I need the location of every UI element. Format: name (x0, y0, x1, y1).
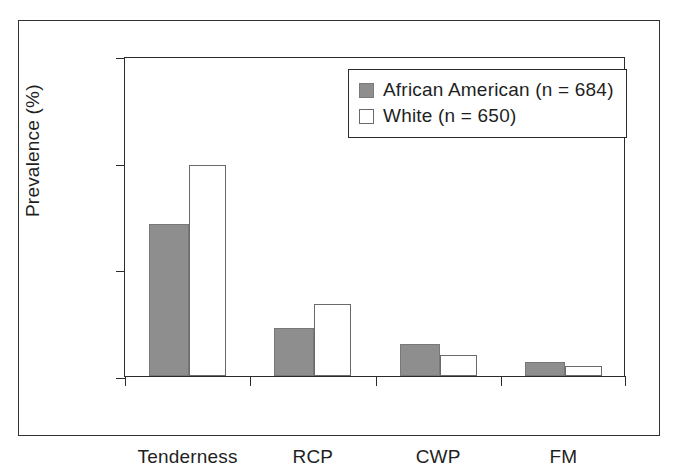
bar-fm-white (565, 366, 602, 376)
bar-cwp-white (440, 355, 477, 376)
legend-label-white: White (n = 650) (383, 105, 516, 127)
legend-swatch-filled-icon (359, 83, 374, 98)
y-tick-mark-40 (116, 165, 125, 166)
bar-cwp-african-american (400, 344, 440, 376)
legend-swatch-hollow-icon (359, 109, 374, 124)
y-tick-mark-20 (116, 271, 125, 272)
x-tick-mark-3 (501, 376, 502, 386)
x-tick-mark-4 (625, 376, 626, 386)
x-tick-label-rcp: RCP (293, 446, 334, 467)
x-tick-mark-0 (125, 376, 126, 386)
y-tick-mark-60 (116, 58, 125, 59)
x-tick-label-cwp: CWP (416, 446, 461, 467)
bar-rcp-white (314, 304, 351, 376)
legend-item-white: White (n = 650) (359, 103, 614, 129)
legend-label-african-american: African American (n = 684) (383, 79, 614, 101)
y-axis-title: Prevalence (%) (22, 84, 44, 217)
bar-fm-african-american (525, 362, 565, 376)
x-tick-label-tenderness: Tenderness (137, 446, 237, 467)
x-tick-mark-1 (250, 376, 251, 386)
legend-item-african-american: African American (n = 684) (359, 77, 614, 103)
bar-rcp-african-american (274, 328, 314, 376)
y-tick-mark-0 (116, 378, 125, 379)
bar-tenderness-white (189, 165, 226, 376)
bar-tenderness-african-american (149, 224, 189, 376)
x-tick-label-fm: FM (549, 446, 577, 467)
x-tick-mark-2 (376, 376, 377, 386)
legend: African American (n = 684) White (n = 65… (348, 69, 627, 138)
